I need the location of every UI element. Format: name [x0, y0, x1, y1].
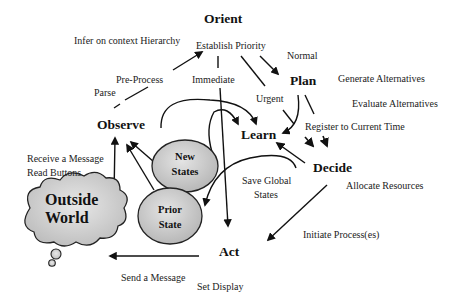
label-infer-context: Infer on context Hierarchy [74, 35, 180, 46]
arrow-prior-to-observe [127, 145, 154, 190]
new-states-label-2: States [165, 165, 205, 179]
node-act: Act [219, 245, 239, 259]
label-send-message: Send a Message [121, 272, 185, 283]
label-save-global-1: Save Global [242, 175, 291, 186]
node-plan: Plan [290, 74, 316, 88]
new-states-label-1: New [168, 150, 202, 164]
arrow-newstates-to-learn-outer [161, 99, 256, 128]
arrow-register-1 [305, 137, 313, 146]
label-register-time: Register to Current Time [305, 121, 405, 132]
label-generate-alternatives: Generate Alternatives [338, 73, 425, 84]
outside-world-label-1: Outside [45, 190, 98, 209]
node-orient: Orient [204, 12, 242, 26]
label-receive-message: Receive a Message [27, 153, 104, 164]
line-plan-register [305, 95, 314, 114]
prior-state-label-2: State [152, 218, 188, 232]
node-decide: Decide [313, 161, 352, 175]
outside-world-label-2: World [45, 208, 89, 227]
label-allocate-resources: Allocate Resources [346, 180, 423, 191]
label-urgent: Urgent [256, 93, 284, 104]
node-learn: Learn [241, 128, 276, 142]
label-save-global-2: States [254, 189, 278, 200]
label-set-display: Set Display [197, 281, 243, 292]
line-urgent-to-learn [283, 110, 294, 124]
label-parse: Parse [94, 87, 116, 98]
arrow-newstates-to-observe [131, 142, 154, 162]
label-immediate: Immediate [192, 74, 235, 85]
arrow-normal-to-plan [260, 56, 278, 74]
label-pre-process: Pre-Process [116, 74, 163, 85]
label-read-buttons: Read Buttons [27, 167, 81, 178]
node-observe: Observe [97, 118, 145, 132]
label-initiate-process: Initiate Process(es) [303, 229, 379, 240]
label-normal: Normal [287, 50, 318, 61]
prior-state-label-1: Prior [152, 203, 188, 217]
label-evaluate-alternatives: Evaluate Alternatives [352, 98, 438, 109]
arrow-register-2 [323, 136, 327, 146]
label-establish-priority: Establish Priority [196, 40, 266, 51]
line-urgent [241, 56, 265, 86]
arrow-immediate-to-act [220, 88, 228, 226]
